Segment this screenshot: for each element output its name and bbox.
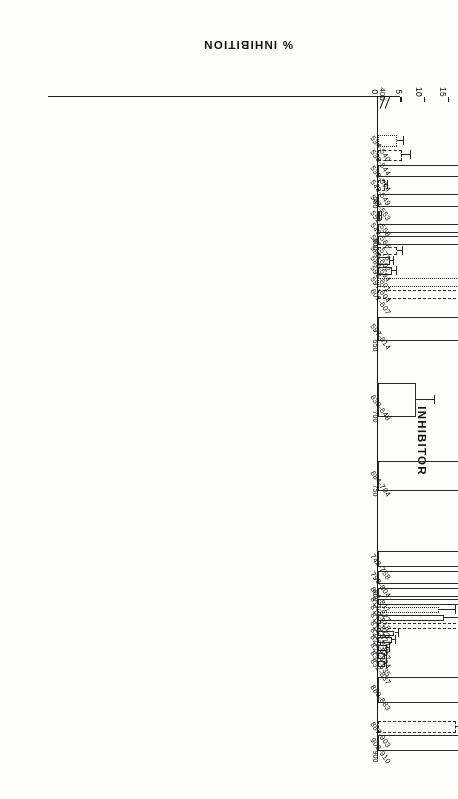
rotated-figure: % INHIBITION INHIBITOR 400 7065605550454…	[0, 0, 458, 799]
y-scale-label-700: 700	[372, 411, 381, 423]
value-axis-line	[48, 96, 400, 97]
error-cap-813-818	[455, 605, 456, 614]
error-cap-534-540	[403, 136, 404, 145]
bar-812-827	[378, 599, 458, 605]
x-axis-title: % INHIBITION	[98, 39, 398, 51]
y-scale-label-750: 750	[372, 485, 381, 497]
figure-canvas: % INHIBITION INHIBITOR 400 7065605550454…	[0, 0, 458, 799]
y-scale-label-550: 550	[372, 197, 381, 209]
x-tick-label-5: 5	[393, 90, 403, 95]
error-cap-538-544	[410, 151, 411, 160]
axis-break-label: 400	[378, 87, 387, 100]
y-scale-label-600: 600	[372, 239, 381, 251]
error-bar-630-648	[416, 399, 435, 400]
bar-887-903	[378, 721, 456, 733]
y-scale-label-900: 900	[372, 751, 381, 763]
bar-684-704	[378, 461, 458, 491]
error-cap-588-602	[402, 246, 403, 255]
error-cap-822-827	[395, 635, 396, 644]
x-tick-15	[448, 97, 449, 102]
x-tick-5	[400, 97, 401, 102]
error-cap-822-839	[398, 629, 399, 638]
x-tick-10	[424, 97, 425, 102]
x-tick-0	[377, 97, 378, 102]
error-bar-818-823	[444, 617, 458, 618]
error-cap-593-601	[396, 266, 397, 275]
x-tick-label-0: 0	[370, 90, 380, 95]
y-scale-label-650: 650	[372, 340, 381, 352]
x-tick-label-10: 10	[414, 87, 424, 97]
bar-742-758	[378, 551, 458, 567]
error-cap-630-648	[434, 395, 435, 404]
error-bar-813-818	[439, 609, 456, 610]
bar-597-614	[378, 317, 458, 341]
y-scale-label-800: 800	[372, 590, 381, 602]
x-tick-label-15: 15	[438, 87, 448, 97]
